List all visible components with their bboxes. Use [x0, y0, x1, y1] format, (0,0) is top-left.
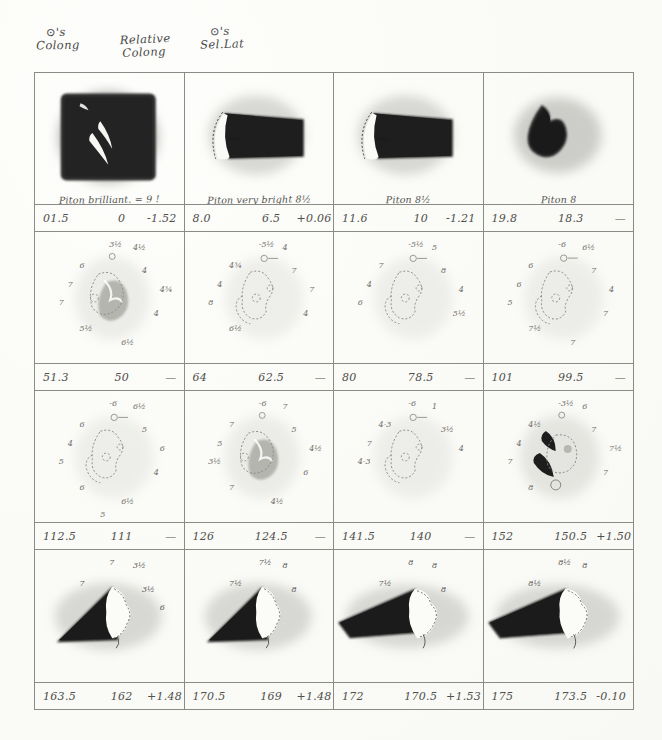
table-row: Piton brilliant. = 9 !01.50-1.52Piton ve…	[35, 73, 633, 232]
lunar-sketch	[185, 73, 334, 205]
value-strip: 01.50-1.52	[35, 204, 184, 231]
lunar-sketch: -5½5784465½	[334, 232, 483, 364]
value-strip: 10199.5—	[484, 363, 634, 390]
value-strip: 112.5111—	[35, 522, 184, 549]
observation-cell[interactable]: -614·33½474·3141.5140—	[334, 391, 484, 549]
value-relative-colong: 169	[246, 690, 296, 703]
value-colong: 19.8	[484, 212, 546, 225]
observation-cell[interactable]: 73½73½6163.5162+1.48	[35, 550, 185, 709]
value-colong: 175	[484, 690, 546, 703]
observation-cell[interactable]: -66½6746577½710199.5—	[484, 232, 634, 390]
value-colong: 141.5	[334, 530, 395, 543]
value-sel-lat: -0.10	[596, 690, 633, 703]
observation-cell[interactable]: 8½88½175173.5-0.10	[484, 550, 634, 709]
value-colong: 64	[185, 371, 246, 384]
value-relative-colong: 140	[395, 530, 445, 543]
lunar-sketch	[35, 73, 184, 205]
lunar-sketch: 7½87½8	[185, 550, 334, 683]
table-row: -66½65645466½5112.5111—-67754½53½674½126…	[35, 391, 633, 550]
observation-cell[interactable]: Piton very bright 8½8.06.5+0.06	[185, 73, 335, 231]
value-sel-lat: +1.48	[296, 690, 334, 703]
value-relative-colong: 162	[96, 690, 146, 703]
header-sel-lat: ⊙'s Sel.Lat	[210, 24, 245, 51]
value-colong: 152	[484, 530, 546, 543]
value-colong: 163.5	[35, 690, 96, 703]
value-sel-lat: +1.50	[596, 530, 633, 543]
value-sel-lat: —	[446, 530, 483, 543]
value-colong: 172	[334, 690, 395, 703]
value-relative-colong: 10	[395, 212, 445, 225]
observation-cell[interactable]: -5½44¾774846½6462.5—	[185, 232, 335, 390]
value-strip: 152150.5+1.50	[484, 522, 634, 549]
header-colong: ⊙'s Colong	[46, 26, 80, 52]
value-colong: 51.3	[35, 371, 96, 384]
value-sel-lat: —	[296, 530, 333, 543]
value-sel-lat: —	[147, 530, 184, 543]
value-strip: 6462.5—	[185, 363, 334, 390]
value-strip: 126124.5—	[185, 522, 334, 549]
value-sel-lat: +0.06	[296, 212, 334, 225]
value-strip: 141.5140—	[334, 522, 483, 549]
observation-cell[interactable]: Piton 8½11.610-1.21	[334, 73, 484, 231]
value-relative-colong: 62.5	[246, 371, 296, 384]
value-strip: 8.06.5+0.06	[185, 204, 334, 231]
lunar-sketch: 73½73½6	[35, 550, 184, 683]
value-colong: 8.0	[185, 212, 246, 225]
value-strip: 19.818.3—	[484, 204, 634, 231]
column-headers: ⊙'s Colong Relative Colong ⊙'s Sel.Lat	[34, 22, 334, 70]
value-sel-lat: —	[147, 371, 184, 384]
value-sel-lat: +1.53	[446, 690, 484, 703]
value-strip: 175173.5-0.10	[484, 682, 634, 709]
value-strip: 11.610-1.21	[334, 204, 483, 231]
value-strip: 8078.5—	[334, 363, 483, 390]
lunar-sketch: -66½65645466½5	[35, 391, 184, 523]
table-row: 73½73½6163.5162+1.487½87½8170.5169+1.488…	[35, 550, 633, 709]
value-colong: 101	[484, 371, 546, 384]
value-sel-lat: —	[596, 212, 633, 225]
value-sel-lat: —	[596, 371, 633, 384]
value-relative-colong: 6.5	[246, 212, 296, 225]
value-relative-colong: 50	[96, 371, 146, 384]
observation-cell[interactable]: -67754½53½674½126124.5—	[185, 391, 335, 549]
observation-cell[interactable]: Piton 819.818.3—	[484, 73, 634, 231]
value-colong: 80	[334, 371, 395, 384]
observation-cell[interactable]: -66½65645466½5112.5111—	[35, 391, 185, 549]
value-sel-lat: -1.21	[446, 212, 483, 225]
value-colong: 112.5	[35, 530, 96, 543]
lunar-sketch: -67754½53½674½	[185, 391, 334, 523]
value-sel-lat: —	[296, 371, 333, 384]
lunar-sketch: 8½88½	[484, 550, 634, 683]
value-strip: 51.350—	[35, 363, 184, 390]
value-relative-colong: 99.5	[545, 371, 596, 384]
header-relative-colong: Relative Colong	[119, 32, 171, 60]
value-relative-colong: 173.5	[545, 690, 596, 703]
value-relative-colong: 18.3	[545, 212, 596, 225]
observation-cell[interactable]: -5½5784465½8078.5—	[334, 232, 484, 390]
value-colong: 11.6	[334, 212, 395, 225]
lunar-sketch: -5½44¾774846½	[185, 232, 334, 364]
value-relative-colong: 0	[96, 212, 146, 225]
value-relative-colong: 124.5	[246, 530, 296, 543]
value-strip: 163.5162+1.48	[35, 682, 184, 709]
observation-cell[interactable]: Piton brilliant. = 9 !01.50-1.52	[35, 73, 185, 231]
value-sel-lat: -1.52	[147, 212, 184, 225]
observation-cell[interactable]: -3½64½77½4778152150.5+1.50	[484, 391, 634, 549]
lunar-sketch	[484, 73, 634, 205]
lunar-sketch: -66½6746577½7	[484, 232, 634, 364]
lunar-sketch: -614·33½474·3	[334, 391, 483, 523]
value-strip: 172170.5+1.53	[334, 682, 483, 709]
value-colong: 126	[185, 530, 246, 543]
lunar-sketch	[334, 73, 483, 205]
lunar-sketch: 3½4½644¾7745½6½	[35, 232, 184, 364]
value-relative-colong: 78.5	[395, 371, 445, 384]
value-colong: 01.5	[35, 212, 96, 225]
value-relative-colong: 111	[96, 530, 146, 543]
observation-cell[interactable]: 7½87½8170.5169+1.48	[185, 550, 335, 709]
value-sel-lat: +1.48	[147, 690, 185, 703]
value-colong: 170.5	[185, 690, 246, 703]
observation-cell[interactable]: 3½4½644¾7745½6½51.350—	[35, 232, 185, 390]
observation-cell[interactable]: 887½8172170.5+1.53	[334, 550, 484, 709]
observation-grid: Piton brilliant. = 9 !01.50-1.52Piton ve…	[34, 72, 634, 710]
value-strip: 170.5169+1.48	[185, 682, 334, 709]
table-row: 3½4½644¾7745½6½51.350—-5½44¾774846½6462.…	[35, 232, 633, 391]
